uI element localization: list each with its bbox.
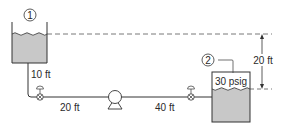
tank-2-pressure: 30 psig <box>215 76 247 87</box>
tank-1-label: 1 <box>27 10 33 21</box>
tank-2-liquid <box>212 88 250 122</box>
segment-label-vertical: 10 ft <box>31 69 51 80</box>
tank-2: 30 psig 2 <box>202 54 250 122</box>
segment-label-before-pump: 20 ft <box>60 102 80 113</box>
arrow-up-icon <box>260 34 264 39</box>
tank-1: 1 <box>12 9 47 63</box>
elevation-dimension: 20 ft <box>252 34 274 89</box>
pipe <box>28 63 212 97</box>
segment-label-after-pump: 40 ft <box>155 102 175 113</box>
pipe-flow-diagram: 1 10 ft 20 ft 40 ft 30 psig 2 <box>0 0 283 127</box>
elevation-label: 20 ft <box>253 55 273 66</box>
pump-icon <box>108 91 122 110</box>
arrow-down-icon <box>260 84 264 89</box>
tank-2-label: 2 <box>205 55 211 66</box>
tank-2-leader-line <box>218 60 233 73</box>
tank-1-liquid <box>12 33 47 63</box>
valve-1-icon <box>37 86 44 100</box>
valve-2-icon <box>188 86 195 100</box>
